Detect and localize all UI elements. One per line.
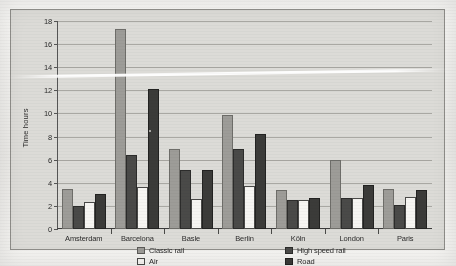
bar-barcelona-air[interactable] — [137, 187, 148, 229]
legend-label-classic: Classic rail — [149, 246, 184, 255]
bar-berlin-classic[interactable] — [222, 115, 233, 229]
bar-amsterdam-road[interactable] — [95, 194, 106, 229]
bar-paris-air[interactable] — [405, 197, 416, 229]
bar-basle-classic[interactable] — [169, 149, 180, 229]
bar-group-berlin — [218, 21, 272, 229]
bar-barcelona-classic[interactable] — [115, 29, 126, 229]
legend-swatch-air — [137, 258, 145, 265]
y-tick-label-10: 10 — [44, 109, 52, 118]
bar-köln-classic[interactable] — [276, 190, 287, 229]
x-axis-label-köln: Köln — [291, 234, 306, 243]
bar-paris-classic[interactable] — [383, 189, 394, 229]
y-tick-label-14: 14 — [44, 63, 52, 72]
legend-swatch-road — [285, 258, 293, 265]
y-tick-mark-0 — [54, 229, 58, 230]
chart-figure-frame: Time hours 024681012141618 AmsterdamBarc… — [10, 9, 445, 250]
bar-köln-highspeed[interactable] — [287, 200, 298, 229]
bar-london-highspeed[interactable] — [341, 198, 352, 229]
bar-amsterdam-air[interactable] — [84, 202, 95, 229]
bar-barcelona-highspeed[interactable] — [126, 155, 137, 229]
y-tick-label-2: 2 — [48, 201, 52, 210]
scanned-page-background: Time hours 024681012141618 AmsterdamBarc… — [0, 0, 456, 266]
x-axis-label-amsterdam: Amsterdam — [65, 234, 102, 243]
x-axis-label-paris: Paris — [397, 234, 414, 243]
bar-group-paris — [378, 21, 432, 229]
bar-berlin-highspeed[interactable] — [233, 149, 244, 229]
legend-item-classic[interactable]: Classic rail — [137, 246, 184, 255]
legend-label-road: Road — [297, 257, 315, 266]
bar-basle-road[interactable] — [202, 170, 213, 229]
y-axis-title: Time hours — [21, 108, 30, 147]
legend-label-air: Air — [149, 257, 158, 266]
y-tick-label-4: 4 — [48, 178, 52, 187]
legend-item-air[interactable]: Air — [137, 257, 158, 266]
x-axis-label-london: London — [339, 234, 363, 243]
bar-group-köln — [271, 21, 325, 229]
bar-group-london — [325, 21, 379, 229]
bar-basle-highspeed[interactable] — [180, 170, 191, 229]
bar-köln-road[interactable] — [309, 198, 320, 229]
bar-london-air[interactable] — [352, 198, 363, 229]
bar-amsterdam-highspeed[interactable] — [73, 206, 84, 229]
bar-group-amsterdam — [57, 21, 111, 229]
bar-london-road[interactable] — [363, 185, 374, 229]
bar-köln-air[interactable] — [298, 200, 309, 229]
legend-item-road[interactable]: Road — [285, 257, 315, 266]
bar-berlin-road[interactable] — [255, 134, 266, 229]
x-axis-label-berlin: Berlin — [235, 234, 254, 243]
x-axis-labels: AmsterdamBarcelonaBasleBerlinKölnLondonP… — [57, 234, 432, 246]
bar-group-barcelona — [111, 21, 165, 229]
y-tick-label-8: 8 — [48, 132, 52, 141]
bars-layer — [57, 21, 432, 229]
bar-paris-highspeed[interactable] — [394, 205, 405, 229]
y-tick-label-16: 16 — [44, 40, 52, 49]
bar-paris-road[interactable] — [416, 190, 427, 229]
bar-barcelona-road[interactable] — [148, 89, 159, 229]
x-axis-label-basle: Basle — [182, 234, 200, 243]
y-tick-label-6: 6 — [48, 155, 52, 164]
y-tick-label-18: 18 — [44, 17, 52, 26]
bar-group-basle — [164, 21, 218, 229]
legend-swatch-highspeed — [285, 247, 293, 254]
legend-label-highspeed: High speed rail — [297, 246, 346, 255]
legend-swatch-classic — [137, 247, 145, 254]
bar-berlin-air[interactable] — [244, 186, 255, 229]
bar-amsterdam-classic[interactable] — [62, 189, 73, 229]
bar-london-classic[interactable] — [330, 160, 341, 229]
bar-basle-air[interactable] — [191, 199, 202, 229]
chart-legend: Classic railHigh speed railAirRoad — [137, 246, 397, 266]
y-tick-label-0: 0 — [48, 225, 52, 234]
y-tick-label-12: 12 — [44, 86, 52, 95]
legend-item-highspeed[interactable]: High speed rail — [285, 246, 346, 255]
x-axis-label-barcelona: Barcelona — [121, 234, 154, 243]
